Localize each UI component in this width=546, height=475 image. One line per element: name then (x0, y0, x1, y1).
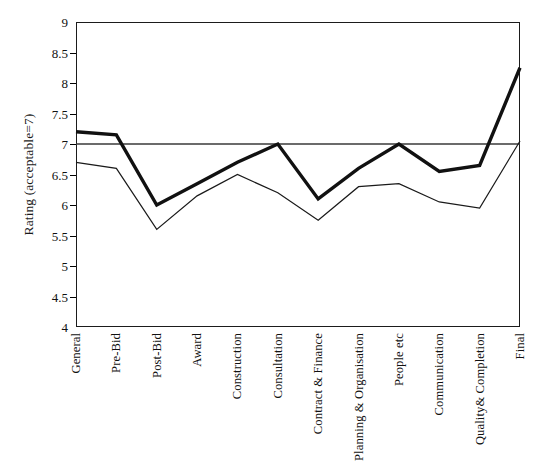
y-axis-tick-label: 9 (38, 16, 68, 29)
y-axis-tick-label: 8.5 (38, 46, 68, 59)
x-axis-tick-label: Post-Bid (151, 333, 164, 378)
x-axis-tick-label: Planning & Organisation (353, 333, 366, 461)
y-axis-tick-label: 6 (38, 199, 68, 212)
x-axis-tick-label: Final (514, 333, 527, 359)
y-axis-tick-label: 5 (38, 260, 68, 273)
plot-area (76, 22, 520, 327)
y-axis-tick-label: 6.5 (38, 168, 68, 181)
y-axis-title: Rating (acceptable=7) (18, 22, 40, 327)
chart-page: Rating (acceptable=7) 98.587.576.565.554… (0, 0, 546, 475)
y-axis-tick-label: 4 (38, 321, 68, 334)
x-axis-tick-label: Contract & Finance (312, 333, 325, 434)
x-axis-tick-label: General (70, 333, 83, 374)
x-axis-tick-label: Construction (231, 333, 244, 399)
y-axis-tick-labels: 98.587.576.565.554.54 (38, 0, 68, 475)
x-axis-tick-label: Consultation (272, 333, 285, 399)
y-axis-tick-label: 5.5 (38, 229, 68, 242)
y-axis-tick-label: 8 (38, 77, 68, 90)
thin-series-line (76, 141, 520, 229)
x-axis-tick-label: Communication (433, 333, 446, 415)
y-axis-tick-label: 7 (38, 138, 68, 151)
x-axis-tick-label: Quality& Completion (474, 333, 487, 445)
y-axis-tick-label: 7.5 (38, 107, 68, 120)
thick-series-line (76, 68, 520, 205)
x-axis-tick-label: Pre-Bid (110, 333, 123, 373)
y-axis-tick-label: 4.5 (38, 290, 68, 303)
x-axis-tick-label: People etc (393, 333, 406, 386)
x-axis-tick-label: Award (191, 333, 204, 367)
